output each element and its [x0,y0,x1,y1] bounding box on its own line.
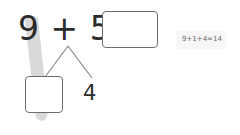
split-part-input-box[interactable] [25,76,63,113]
hint-text: 9+1+4=14 [182,34,222,45]
number-bond-branch-lines [0,0,240,135]
split-part-value: 4 [83,80,96,106]
